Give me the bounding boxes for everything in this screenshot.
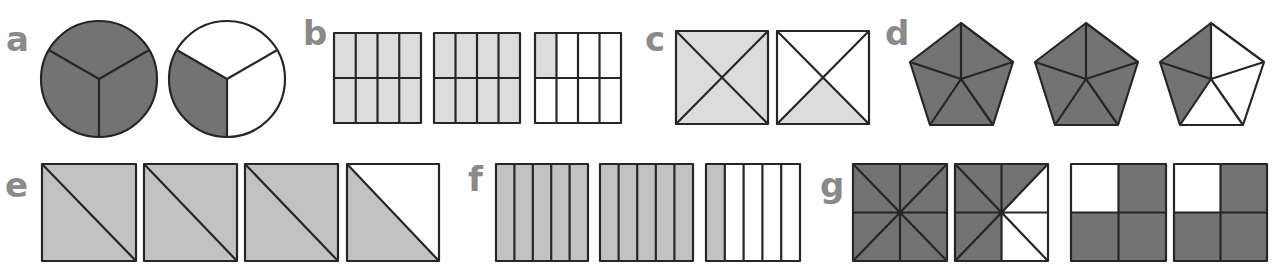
shape-g4-square-3-of-4 [1174,164,1267,261]
shape-g1-square-8-of-8 [853,164,947,261]
shape-f2-strips-5-of-5 [600,164,693,261]
shape-d3-pentagon-2-of-5 [1160,23,1264,125]
shape-c1-square-x-4-of-4 [676,31,768,124]
shape-g2-square-5-of-8 [955,164,1048,261]
shape-e1-square-2-of-2 [42,164,136,261]
shape-c2-square-x-1-of-4 [777,31,869,124]
shape-e4-square-1-of-2 [347,164,439,261]
shape-e2-square-2-of-2 [144,164,237,261]
shape-f3-strips-1-of-5 [706,164,800,261]
shape-f1-strips-5-of-5 [496,164,588,261]
fraction-diagram: .dk { fill:#737373; } .lt { fill:#dcdcdc… [0,0,1274,276]
shape-b3-grid-1-of-8 [535,33,621,123]
shape-a2-circle-1-of-3 [169,21,285,137]
shape-b1-grid-8-of-8 [334,33,421,123]
shape-d2-pentagon-5-of-5 [1035,23,1138,125]
shape-e3-square-2-of-2 [245,164,338,261]
shape-b2-grid-8-of-8 [434,33,520,123]
shape-a1-circle-3-of-3 [41,21,157,137]
shape-g3-square-3-of-4 [1071,164,1166,261]
shape-d1-pentagon-5-of-5 [910,23,1013,125]
